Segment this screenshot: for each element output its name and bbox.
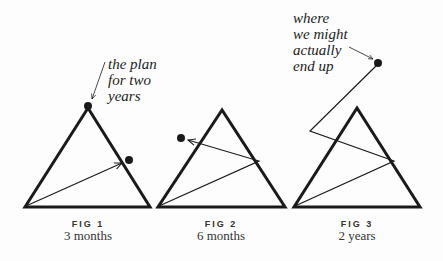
fig3-annotation: where we might actually end up	[293, 10, 348, 74]
fig1-plan-dot	[84, 102, 92, 110]
annotation-line: for two	[108, 72, 157, 88]
fig3-label: FIG 3 2 years	[307, 219, 407, 243]
annotation-line: actually	[293, 42, 348, 58]
fig2-diagram	[158, 110, 285, 207]
annotation-line: end up	[293, 58, 348, 74]
annotation-line: years	[108, 88, 157, 104]
annotation-line: where	[293, 10, 348, 26]
fig-caption: 6 months	[171, 229, 271, 243]
fig1-annotation-arrow	[92, 62, 105, 99]
fig2-path	[159, 140, 259, 206]
annotation-line: the plan	[108, 56, 157, 72]
fig1-progress-dot	[125, 156, 133, 164]
fig-caption: 3 months	[38, 229, 138, 243]
annotation-line: we might	[293, 26, 348, 42]
fig-caption: 2 years	[307, 229, 407, 243]
fig2-label: FIG 2 6 months	[171, 219, 271, 243]
fig3-dot	[374, 59, 382, 67]
fig2-dot	[177, 134, 185, 142]
fig3-triangle	[294, 108, 420, 207]
fig1-annotation: the plan for two years	[108, 56, 157, 104]
fig1-label: FIG 1 3 months	[38, 219, 138, 243]
fig3-annotation-arrow	[349, 47, 373, 59]
fig2-triangle	[158, 110, 285, 207]
